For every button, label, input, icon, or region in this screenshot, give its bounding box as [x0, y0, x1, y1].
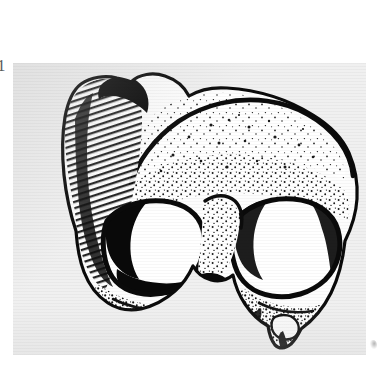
- scan-artifact-smudge: [370, 340, 377, 349]
- figure-page: 1: [0, 0, 387, 385]
- figure-plate: [13, 63, 366, 355]
- figure-number-label: 1: [0, 57, 6, 74]
- cranium-illustration: [13, 63, 366, 355]
- right-inferior-lacuna: [272, 315, 299, 339]
